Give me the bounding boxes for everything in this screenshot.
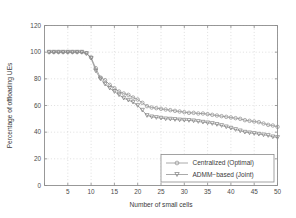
- y-tick-label: 20: [34, 155, 42, 162]
- x-tick-label: 20: [134, 188, 142, 195]
- x-tick-label: 25: [157, 188, 165, 195]
- y-tick-label: 80: [34, 75, 42, 82]
- x-axis-title: Number of small cells: [129, 201, 193, 208]
- series-group: [47, 50, 279, 139]
- x-tick-label: 5: [66, 188, 70, 195]
- y-tick-label: 120: [30, 22, 41, 29]
- legend-label: ADMM−based (Joint): [193, 171, 254, 179]
- y-tick-label: 60: [34, 102, 42, 109]
- x-tick-label: 30: [181, 188, 189, 195]
- x-tick-label: 40: [227, 188, 235, 195]
- x-tick-label: 35: [204, 188, 212, 195]
- y-axis-title: Percentage of offloading UEs: [6, 62, 14, 148]
- series-admm: [47, 50, 279, 139]
- x-tick-label: 45: [251, 188, 259, 195]
- chart-figure: 5101520253035404550020406080100120Number…: [0, 0, 296, 218]
- y-tick-label: 0: [37, 182, 41, 189]
- series-line: [49, 52, 277, 137]
- y-tick-label: 100: [30, 48, 41, 55]
- x-tick-label: 15: [111, 188, 119, 195]
- legend: Centralized (Optimal)ADMM−based (Joint): [161, 155, 274, 183]
- line-chart-canvas: 5101520253035404550020406080100120Number…: [0, 0, 296, 218]
- x-tick-label: 50: [274, 188, 282, 195]
- series-line: [49, 52, 277, 127]
- y-tick-label: 40: [34, 128, 42, 135]
- legend-label: Centralized (Optimal): [193, 159, 254, 167]
- x-tick-label: 10: [88, 188, 96, 195]
